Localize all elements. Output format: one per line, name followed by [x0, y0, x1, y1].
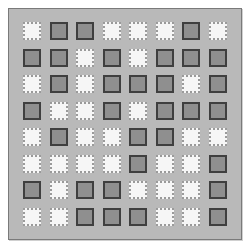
tile-r0-c2[interactable] [76, 22, 94, 40]
tile-r2-c1[interactable] [50, 75, 68, 93]
tile-r6-c4[interactable] [129, 181, 147, 199]
tile-r3-c0[interactable] [23, 102, 41, 120]
tile-r4-c6[interactable] [182, 128, 200, 146]
tile-r2-c3[interactable] [103, 75, 121, 93]
tile-r5-c4[interactable] [129, 155, 147, 173]
tile-r1-c1[interactable] [50, 49, 68, 67]
tile-r4-c4[interactable] [129, 128, 147, 146]
tile-r1-c4[interactable] [129, 49, 147, 67]
tile-r6-c0[interactable] [23, 181, 41, 199]
tile-r0-c0[interactable] [23, 22, 41, 40]
tile-r0-c6[interactable] [182, 22, 200, 40]
tile-r1-c7[interactable] [209, 49, 227, 67]
tile-r2-c7[interactable] [209, 75, 227, 93]
tile-r5-c5[interactable] [156, 155, 174, 173]
tile-r4-c5[interactable] [156, 128, 174, 146]
tile-r1-c2[interactable] [76, 49, 94, 67]
tile-r0-c7[interactable] [209, 22, 227, 40]
tile-r7-c3[interactable] [103, 208, 121, 226]
tile-r6-c3[interactable] [103, 181, 121, 199]
tile-r7-c2[interactable] [76, 208, 94, 226]
tile-r2-c4[interactable] [129, 75, 147, 93]
tile-r4-c0[interactable] [23, 128, 41, 146]
tile-r3-c2[interactable] [76, 102, 94, 120]
tile-r0-c3[interactable] [103, 22, 121, 40]
tile-r3-c5[interactable] [156, 102, 174, 120]
tile-r2-c5[interactable] [156, 75, 174, 93]
tile-r4-c3[interactable] [103, 128, 121, 146]
tile-r7-c4[interactable] [129, 208, 147, 226]
tile-r7-c7[interactable] [209, 208, 227, 226]
tile-r1-c3[interactable] [103, 49, 121, 67]
tile-r0-c5[interactable] [156, 22, 174, 40]
tile-r3-c1[interactable] [50, 102, 68, 120]
tile-r3-c3[interactable] [103, 102, 121, 120]
tile-r6-c1[interactable] [50, 181, 68, 199]
tile-r2-c0[interactable] [23, 75, 41, 93]
tile-r3-c4[interactable] [129, 102, 147, 120]
tile-r6-c7[interactable] [209, 181, 227, 199]
tile-r5-c3[interactable] [103, 155, 121, 173]
tile-r2-c2[interactable] [76, 75, 94, 93]
tile-r0-c4[interactable] [129, 22, 147, 40]
tile-r5-c1[interactable] [50, 155, 68, 173]
tile-r7-c5[interactable] [156, 208, 174, 226]
tile-r6-c5[interactable] [156, 181, 174, 199]
tile-r6-c2[interactable] [76, 181, 94, 199]
tile-r7-c6[interactable] [182, 208, 200, 226]
tile-r1-c5[interactable] [156, 49, 174, 67]
tile-r0-c1[interactable] [50, 22, 68, 40]
tile-r7-c1[interactable] [50, 208, 68, 226]
tile-r1-c0[interactable] [23, 49, 41, 67]
tile-r4-c7[interactable] [209, 128, 227, 146]
tile-r3-c7[interactable] [209, 102, 227, 120]
tile-r4-c2[interactable] [76, 128, 94, 146]
tile-r5-c7[interactable] [209, 155, 227, 173]
tile-r4-c1[interactable] [50, 128, 68, 146]
tile-r1-c6[interactable] [182, 49, 200, 67]
tile-r6-c6[interactable] [182, 181, 200, 199]
tile-grid [23, 22, 227, 226]
tile-r5-c0[interactable] [23, 155, 41, 173]
tile-r5-c6[interactable] [182, 155, 200, 173]
tile-r5-c2[interactable] [76, 155, 94, 173]
tile-r7-c0[interactable] [23, 208, 41, 226]
tile-r3-c6[interactable] [182, 102, 200, 120]
tile-r2-c6[interactable] [182, 75, 200, 93]
game-board [8, 8, 242, 240]
